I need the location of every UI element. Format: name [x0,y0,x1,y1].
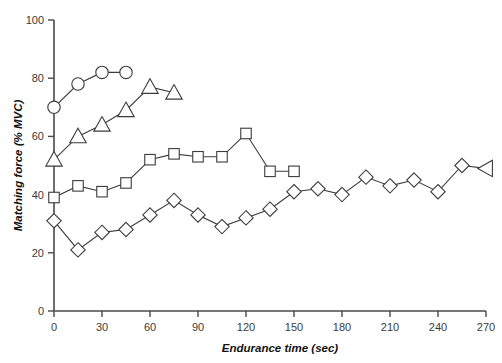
data-point-diamond [119,222,133,236]
y-tick-label: 100 [26,14,44,26]
x-axis-title: Endurance time (sec) [222,342,338,354]
series-square-series [49,128,300,203]
series-circle-series [48,66,132,113]
data-point-diamond [407,173,421,187]
series-line [54,72,126,107]
data-point-circle [96,66,108,78]
x-tick-label: 180 [333,321,351,333]
series-line [54,87,174,160]
data-point-diamond [263,202,277,216]
y-axis-title: Matching force (% MVC) [12,100,24,232]
y-tick-label: 20 [32,247,44,259]
data-point-square [73,181,84,192]
x-tick-label: 120 [237,321,255,333]
data-point-triangle [70,128,86,143]
data-point-circle [72,78,84,90]
data-point-diamond [95,225,109,239]
data-point-square [241,128,252,139]
x-tick-label: 60 [144,321,156,333]
data-point-diamond [143,208,157,222]
y-tick-label: 60 [32,130,44,142]
data-point-triangle [94,117,110,132]
data-point-diamond [383,179,397,193]
data-point-square [193,152,204,163]
y-tick-label: 0 [38,305,44,317]
data-point-triangle [142,79,158,94]
x-tick-label: 30 [96,321,108,333]
data-point-circle [48,101,60,113]
data-point-square [217,152,228,163]
data-point-diamond [287,184,301,198]
x-tick-label: 270 [477,321,495,333]
x-tick-label: 240 [429,321,447,333]
x-tick-label: 90 [192,321,204,333]
data-point-square [49,192,60,203]
data-point-diamond [239,211,253,225]
data-point-square [265,166,276,177]
data-point-square [145,154,156,165]
data-point-diamond [359,170,373,184]
data-point-diamond [71,243,85,257]
series-triangle-series [46,79,182,166]
data-point-square [169,149,180,160]
y-tick-label: 40 [32,189,44,201]
data-point-diamond [311,182,325,196]
data-point-diamond [215,219,229,233]
data-point-diamond [47,214,61,228]
x-tick-label: 0 [51,321,57,333]
data-point-square [289,166,300,177]
data-point-diamond [335,187,349,201]
chart-plot: 0204060801000306090120150180210240270End… [0,0,502,363]
series-line [54,134,294,198]
data-point-square [121,178,132,189]
data-point-triangle-left [478,160,493,176]
chart-container: 0204060801000306090120150180210240270End… [0,0,502,363]
data-point-diamond [167,193,181,207]
x-tick-label: 150 [285,321,303,333]
data-point-square [97,186,108,197]
x-tick-label: 210 [381,321,399,333]
data-point-circle [120,66,132,78]
y-tick-label: 80 [32,72,44,84]
data-point-diamond [191,208,205,222]
